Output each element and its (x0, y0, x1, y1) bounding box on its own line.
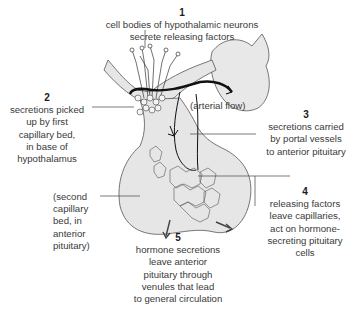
arterial-flow-annotation: (arterial flow) (190, 100, 245, 112)
step-number: 2 (0, 92, 94, 104)
step-4-label: 4 releasing factors leave capillaries, a… (254, 186, 356, 259)
step-number: 1 (92, 7, 272, 19)
step-number: 3 (256, 109, 356, 121)
step-text: secretions carried by portal vessels to … (256, 121, 356, 158)
step-5-label: 5 hormone secretions leave anterior pitu… (118, 232, 238, 305)
step-number: 4 (254, 186, 356, 198)
step-text: cell bodies of hypothalamic neurons secr… (92, 19, 272, 43)
step-number: 5 (118, 232, 238, 244)
second-capillary-bed-annotation: (second capillary bed, in anterior pitui… (53, 191, 90, 252)
step-text: hormone secretions leave anterior pituit… (118, 244, 238, 305)
step-2-label: 2 secretions picked up by first capillar… (0, 92, 94, 165)
step-text: secretions picked up by first capillary … (0, 104, 94, 165)
step-text: releasing factors leave capillaries, act… (254, 198, 356, 259)
step-1-label: 1 cell bodies of hypothalamic neurons se… (92, 7, 272, 44)
step-3-label: 3 secretions carried by portal vessels t… (256, 109, 356, 158)
